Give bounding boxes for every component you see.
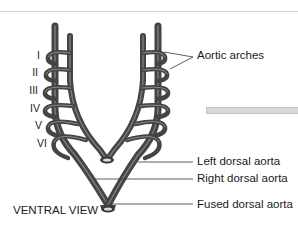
left-vessels [45, 26, 108, 205]
arch-numeral-4: IV [20, 103, 40, 114]
view-label: VENTRAL VIEW [13, 205, 98, 217]
fused-dorsal-aorta-label: Fused dorsal aorta [197, 199, 293, 211]
arch-numeral-2: II [18, 67, 38, 78]
right-vessels [107, 26, 168, 205]
arch-numeral-5: V [22, 120, 42, 131]
arch-numeral-3: III [18, 85, 38, 96]
arch-numeral-1: I [20, 50, 40, 61]
right-dorsal-aorta-label: Right dorsal aorta [197, 173, 288, 185]
aortic-arches-illustration [0, 0, 298, 228]
arch-numeral-6: VI [27, 138, 47, 149]
aortic-arches-label: Aortic arches [197, 50, 264, 62]
left-dorsal-aorta-label: Left dorsal aorta [197, 156, 280, 168]
